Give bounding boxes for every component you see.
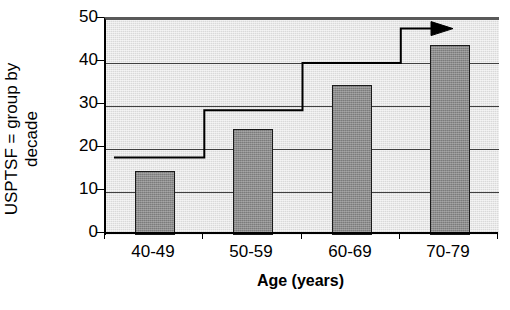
y-axis-title-line-1: USPTSF = group by bbox=[2, 20, 22, 258]
y-axis-title-line-1-text: USPTSF = group by bbox=[2, 20, 22, 258]
plot-area bbox=[104, 17, 499, 235]
y-axis-tick-label-50: 50 bbox=[64, 8, 98, 25]
bar-40-49 bbox=[135, 171, 175, 235]
x-axis-tick-label-50-59: 50-59 bbox=[202, 242, 300, 262]
y-axis-tick-label-10: 10 bbox=[64, 180, 98, 197]
x-axis-title: Age (years) bbox=[104, 272, 497, 290]
bar-texture bbox=[136, 172, 174, 234]
x-axis-tick-mark-0 bbox=[104, 232, 105, 239]
x-axis-tick-label-60-69: 60-69 bbox=[301, 242, 399, 262]
x-axis-tick-marks bbox=[104, 232, 499, 240]
x-axis-tick-labels: 40-4950-5960-6970-79 bbox=[104, 242, 497, 264]
y-axis-title: USPTSF = group by decade bbox=[0, 0, 62, 250]
bar-texture bbox=[333, 86, 371, 234]
y-axis-tick-label-0: 0 bbox=[64, 223, 98, 240]
x-axis-tick-mark-3 bbox=[399, 232, 400, 239]
y-axis-title-line-2: decade bbox=[22, 20, 42, 258]
x-axis-tick-mark-1 bbox=[202, 232, 203, 239]
y-axis-title-line-2-text: decade bbox=[22, 20, 42, 258]
bar-60-69 bbox=[332, 85, 372, 235]
trend-arrow-icon bbox=[431, 22, 453, 36]
bar-50-59 bbox=[233, 129, 273, 235]
y-axis-tick-label-30: 30 bbox=[64, 94, 98, 111]
chart-figure: USPTSF = group by decade 50 40 30 20 10 … bbox=[0, 0, 510, 310]
bar-70-79 bbox=[430, 45, 470, 235]
x-axis-tick-label-40-49: 40-49 bbox=[104, 242, 202, 262]
x-axis-tick-mark-4 bbox=[497, 232, 498, 239]
y-axis-tick-label-20: 20 bbox=[64, 137, 98, 154]
bar-texture bbox=[431, 46, 469, 234]
x-axis-tick-mark-2 bbox=[301, 232, 302, 239]
y-axis-tick-labels: 50 40 30 20 10 0 bbox=[58, 0, 98, 250]
y-axis-tick-label-40: 40 bbox=[64, 51, 98, 68]
bar-texture bbox=[234, 130, 272, 234]
x-axis-tick-label-70-79: 70-79 bbox=[399, 242, 497, 262]
